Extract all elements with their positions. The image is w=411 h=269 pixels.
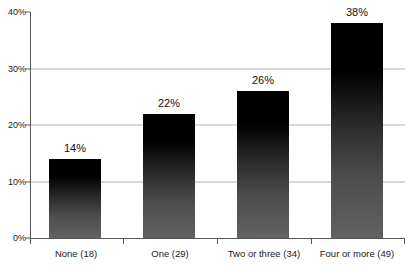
bar-one [143,114,195,238]
y-axis-line [30,12,31,238]
x-tick-3 [311,238,312,244]
y-tick-mark-40 [25,12,30,13]
y-tick-mark-10 [25,181,30,182]
y-tick-label-40: 40% [0,7,26,17]
y-tick-mark-20 [25,125,30,126]
bar-chart: 0% 10% 20% 30% 40% 14% 22% 26% 38% None … [0,0,411,269]
bar-value-none: 14% [64,142,86,154]
category-label-two-or-three: Two or three (34) [228,248,300,259]
x-tick-4 [404,238,405,244]
bar-two-or-three [237,91,289,238]
category-label-one: One (29) [151,248,189,259]
y-tick-label-30: 30% [0,64,26,74]
x-tick-2 [217,238,218,244]
bar-four-or-more [331,23,383,238]
category-label-four-or-more: Four or more (49) [320,248,394,259]
y-tick-label-10: 10% [0,177,26,187]
category-label-none: None (18) [55,248,97,259]
y-tick-label-0: 0% [0,233,26,243]
bar-value-two-or-three: 26% [252,74,274,86]
bar-value-four-or-more: 38% [346,6,368,18]
bar-value-one: 22% [158,97,180,109]
y-tick-mark-30 [25,68,30,69]
bar-none [49,159,101,238]
x-tick-0 [30,238,31,244]
y-tick-label-20: 20% [0,120,26,130]
x-tick-1 [123,238,124,244]
